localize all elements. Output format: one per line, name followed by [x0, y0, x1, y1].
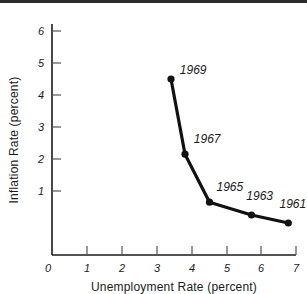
y-tick-label-2: 2	[37, 153, 44, 165]
x-tick-label-3: 3	[154, 262, 161, 274]
chart-canvas: 6 5 4 3 2 1 0 1 2 3 4 5 6 7	[0, 0, 307, 294]
year-annotations: 19691967196519631961	[180, 63, 306, 210]
data-point-1961[interactable]	[285, 219, 292, 226]
annotation-1961: 1961	[280, 197, 307, 211]
data-point-1965[interactable]	[206, 199, 213, 206]
phillips-curve-figure: 6 5 4 3 2 1 0 1 2 3 4 5 6 7	[0, 0, 307, 294]
data-point-1969[interactable]	[167, 75, 174, 82]
x-axis-title: Unemployment Rate (percent)	[91, 280, 257, 294]
annotation-1963: 1963	[246, 189, 273, 203]
axes-group	[52, 24, 296, 255]
x-tick-label-1: 1	[84, 262, 90, 274]
y-tick-label-3: 3	[38, 121, 45, 133]
y-axis-title: Inflation Rate (percent)	[7, 77, 21, 204]
x-axis-tick-labels: 0 1 2 3 4 5 6 7	[45, 262, 300, 274]
data-point-1967[interactable]	[181, 151, 188, 158]
x-tick-label-6: 6	[258, 262, 265, 274]
y-tick-label-4: 4	[38, 89, 44, 101]
x-tick-label-2: 2	[118, 262, 125, 274]
annotation-1969: 1969	[180, 63, 207, 77]
data-point-markers	[167, 75, 292, 226]
y-tick-label-1: 1	[38, 185, 44, 197]
annotation-1967: 1967	[194, 132, 222, 146]
x-tick-label-4: 4	[189, 262, 195, 274]
x-tick-label-0: 0	[45, 262, 52, 274]
x-tick-label-7: 7	[293, 262, 300, 274]
x-axis-ticks	[87, 246, 296, 255]
y-axis-tick-labels: 6 5 4 3 2 1	[37, 25, 45, 197]
y-tick-label-6: 6	[38, 25, 45, 37]
x-tick-label-5: 5	[224, 262, 231, 274]
data-point-1963[interactable]	[248, 211, 255, 218]
annotation-1965: 1965	[217, 180, 244, 194]
y-tick-label-5: 5	[38, 57, 45, 69]
y-axis-ticks	[52, 31, 61, 191]
